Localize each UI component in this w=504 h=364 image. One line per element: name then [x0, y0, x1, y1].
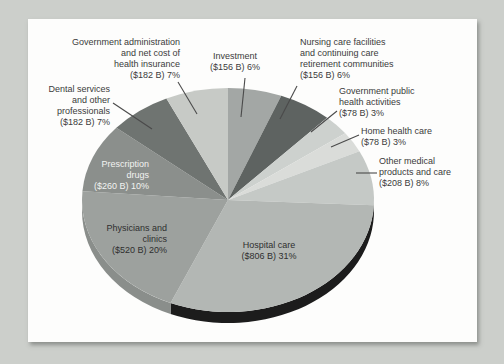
pie-chart — [0, 0, 504, 364]
figure-background: Government administrationand net cost of… — [0, 0, 504, 364]
